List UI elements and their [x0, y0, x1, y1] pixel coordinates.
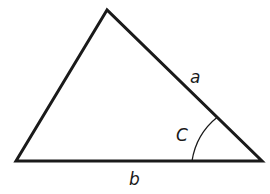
triangle-diagram: a C b	[0, 0, 270, 194]
angle-c-label: C	[176, 125, 188, 145]
side-b-label: b	[129, 169, 140, 189]
angle-c-arc	[192, 117, 218, 161]
triangle	[16, 10, 262, 161]
side-a-label: a	[190, 67, 200, 87]
